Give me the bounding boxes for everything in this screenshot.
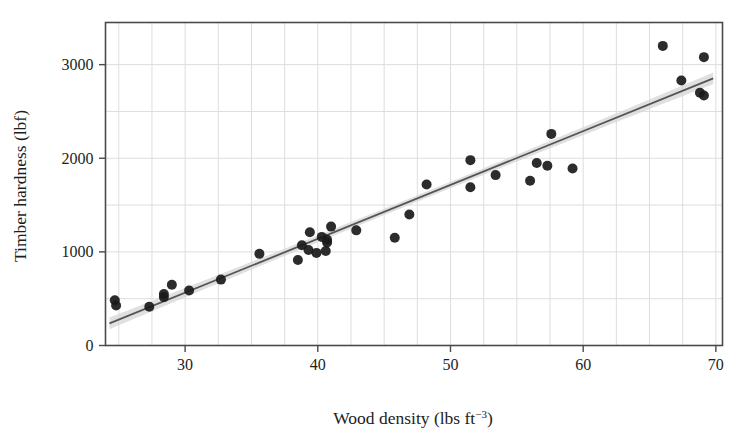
y-tick-labels: 0100020003000 (62, 56, 94, 354)
y-tick-label: 3000 (62, 56, 94, 73)
x-axis-title: Wood density (lbs ft−3) (333, 408, 493, 428)
y-tick-label: 2000 (62, 150, 94, 167)
data-point (351, 225, 361, 235)
data-point (465, 182, 475, 192)
y-tick-label: 1000 (62, 243, 94, 260)
data-point (305, 227, 315, 237)
data-point (699, 52, 709, 62)
x-tick-label: 60 (575, 356, 591, 373)
data-point (465, 155, 475, 165)
data-point (532, 158, 542, 168)
data-points (110, 41, 709, 312)
plot-frame (106, 23, 723, 346)
data-point (422, 179, 432, 189)
gridlines (106, 23, 723, 346)
data-point (311, 248, 321, 258)
data-point (111, 301, 121, 311)
scatter-plot: 3040506070 0100020003000 Wood density (l… (0, 0, 749, 437)
x-tick-label: 70 (708, 356, 724, 373)
data-point (676, 76, 686, 86)
data-point (293, 255, 303, 265)
data-point (658, 41, 668, 51)
data-point (542, 161, 552, 171)
data-point (216, 275, 226, 285)
y-tick-label: 0 (86, 337, 94, 354)
data-point (254, 249, 264, 259)
axis-ticks (99, 65, 716, 352)
data-point (525, 176, 535, 186)
x-tick-label: 30 (177, 356, 193, 373)
x-tick-labels: 3040506070 (177, 356, 724, 373)
regression-line (109, 78, 713, 323)
data-point (390, 233, 400, 243)
data-point (326, 222, 336, 232)
data-point (568, 164, 578, 174)
data-point (404, 209, 414, 219)
x-tick-label: 50 (442, 356, 458, 373)
data-point (699, 91, 709, 101)
x-tick-label: 40 (310, 356, 326, 373)
data-point (321, 246, 331, 256)
data-point (167, 280, 177, 290)
data-point (491, 170, 501, 180)
data-point (144, 302, 154, 312)
data-point (184, 286, 194, 296)
data-point (159, 289, 169, 299)
data-point (546, 129, 556, 139)
data-point (322, 235, 332, 245)
chart-figure: 3040506070 0100020003000 Wood density (l… (0, 0, 749, 437)
y-axis-title: Timber hardness (lbf) (10, 110, 30, 262)
